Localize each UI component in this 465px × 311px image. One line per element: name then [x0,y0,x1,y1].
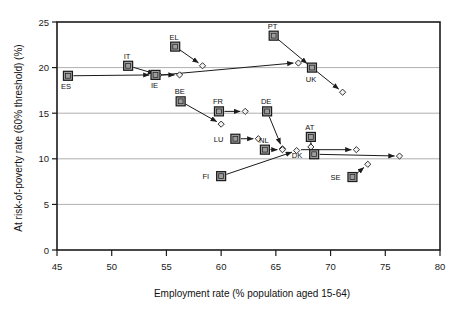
chart-canvas: ESITIEELPTUKBEFRDELUATNLFIDKSE 051015202… [0,0,465,311]
start-marker-square [217,172,226,181]
point-label-dk: DK [292,151,302,160]
start-marker-square [263,107,272,116]
start-marker-square [151,70,160,79]
point-label-es: ES [61,82,71,91]
y-axis-title: At risk-of-poverty rate (60% threshold) … [13,44,24,231]
point-label-se: SE [330,173,340,182]
chart-background [0,0,465,311]
x-tick-label: 70 [325,261,336,272]
start-marker-square [307,63,316,72]
point-label-el: EL [170,33,179,42]
start-marker-square [231,134,240,143]
start-marker-square [176,97,185,106]
start-marker-square [306,132,315,141]
start-marker-square [269,31,278,40]
start-marker-square [310,150,319,159]
scatter-chart: ESITIEELPTUKBEFRDELUATNLFIDKSE 051015202… [0,0,465,311]
x-tick-label: 80 [435,261,446,272]
start-marker-square [214,107,223,116]
y-tick-label: 0 [44,245,49,256]
y-tick-label: 5 [44,199,49,210]
point-label-lu: LU [214,135,224,144]
y-tick-label: 25 [38,17,49,28]
point-label-at: AT [305,123,314,132]
start-marker-square [124,61,133,70]
x-tick-label: 50 [106,261,117,272]
x-tick-label: 60 [216,261,227,272]
start-marker-square [63,71,72,80]
point-label-ie: IE [151,81,158,90]
x-tick-label: 45 [52,261,63,272]
x-axis-title: Employment rate (% population aged 15-64… [154,288,350,299]
y-tick-label: 10 [38,153,49,164]
y-tick-label: 15 [38,108,49,119]
x-tick-label: 65 [271,261,282,272]
x-tick-label: 55 [161,261,172,272]
start-marker-square [348,173,357,182]
point-label-fi: FI [202,172,209,181]
y-tick-label: 20 [38,62,49,73]
point-label-fr: FR [213,97,224,106]
start-marker-square [260,145,269,154]
point-label-uk: UK [306,75,316,84]
point-label-pt: PT [268,22,278,31]
point-label-it: IT [124,52,131,61]
x-tick-label: 75 [380,261,391,272]
point-label-nl: NL [259,136,269,145]
point-label-de: DE [261,97,271,106]
point-label-be: BE [175,87,185,96]
start-marker-square [171,42,180,51]
